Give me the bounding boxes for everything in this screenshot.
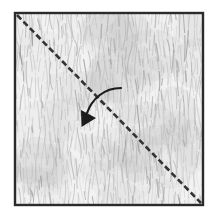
figure-root xyxy=(0,0,213,221)
figure-canvas xyxy=(0,0,213,221)
